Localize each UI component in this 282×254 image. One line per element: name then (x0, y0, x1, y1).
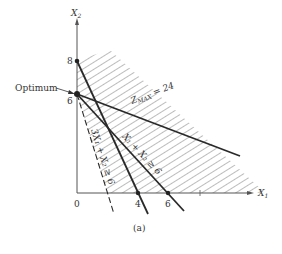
x2-axis-label: X2 (70, 8, 81, 19)
x1-axis-label: X1 (257, 188, 268, 199)
x-tick-4: 4 (135, 199, 141, 209)
figure-caption: (a) (133, 223, 145, 233)
point-6-0 (166, 191, 170, 195)
x2-axis-arrow-icon (75, 18, 79, 25)
origin-label: 0 (74, 199, 80, 209)
lp-graph-figure: X2 X1 8 6 0 4 6 Optimum ZMAX = 24 X₁ + X… (0, 0, 282, 254)
point-4-0 (136, 191, 140, 195)
x-tick-6: 6 (165, 199, 171, 209)
optimum-label: Optimum (15, 83, 58, 93)
point-0-8 (75, 59, 80, 64)
y-tick-6: 6 (67, 96, 73, 106)
optimum-arrow-icon (68, 90, 75, 94)
y-tick-8: 8 (67, 56, 73, 66)
